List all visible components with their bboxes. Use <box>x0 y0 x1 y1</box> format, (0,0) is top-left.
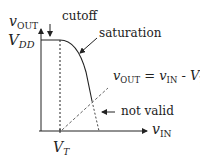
saturation-label: saturation <box>99 27 161 39</box>
not-valid-label: not valid <box>121 105 174 117</box>
y-axis-label: vOUT <box>9 14 38 31</box>
vt-label: VT <box>53 140 69 157</box>
cutoff-label: cutoff <box>62 10 97 22</box>
not-valid-extension <box>92 101 99 131</box>
saturation-boundary-line <box>62 88 108 130</box>
saturation-arrow <box>80 38 97 53</box>
x-axis-label: vIN <box>152 122 171 139</box>
vdd-label: VDD <box>8 33 34 50</box>
equation-label: vOUT = vIN - VT <box>113 69 200 84</box>
